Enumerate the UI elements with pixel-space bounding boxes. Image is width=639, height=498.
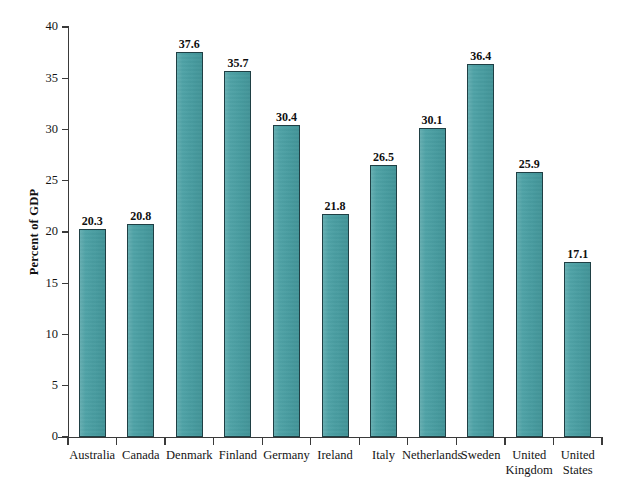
bar: 25.9 bbox=[516, 172, 543, 437]
bar: 21.8 bbox=[322, 214, 349, 437]
bar-value-label: 26.5 bbox=[373, 150, 394, 164]
y-axis-tick: 30 bbox=[62, 129, 69, 130]
y-axis-tick-label: 5 bbox=[52, 377, 58, 393]
bar: 36.4 bbox=[467, 64, 494, 437]
bar-value-label: 17.1 bbox=[567, 247, 588, 261]
bar-value-label: 25.9 bbox=[519, 157, 540, 171]
y-axis-tick-label: 15 bbox=[46, 275, 59, 291]
bar: 26.5 bbox=[370, 165, 397, 437]
y-axis-tick: 25 bbox=[62, 180, 69, 181]
y-axis-tick: 35 bbox=[62, 78, 69, 79]
y-axis-title: Percent of GDP bbox=[24, 27, 44, 437]
x-axis-tick bbox=[456, 437, 457, 445]
bar-value-label: 37.6 bbox=[179, 37, 200, 51]
bar: 17.1 bbox=[564, 262, 591, 437]
x-axis-tick bbox=[67, 437, 68, 445]
bar-chart: Percent of GDP 4035302520151050 20.320.8… bbox=[0, 0, 639, 498]
bar-value-label: 30.4 bbox=[276, 110, 297, 124]
y-axis-tick-label: 10 bbox=[46, 326, 59, 342]
x-axis-tick bbox=[359, 437, 360, 445]
x-axis-category-label: UnitedStates bbox=[547, 448, 608, 478]
x-axis-tick bbox=[164, 437, 165, 445]
x-axis-category-label-line: United bbox=[547, 448, 608, 463]
bar: 20.8 bbox=[127, 224, 154, 437]
x-axis-tick bbox=[116, 437, 117, 445]
y-axis-tick-label: 35 bbox=[46, 70, 59, 86]
x-axis-tick bbox=[262, 437, 263, 445]
x-axis-tick bbox=[553, 437, 554, 445]
bar-value-label: 20.3 bbox=[82, 214, 103, 228]
x-axis-tick bbox=[407, 437, 408, 445]
y-axis-tick: 15 bbox=[62, 283, 69, 284]
y-axis-tick: 5 bbox=[62, 385, 69, 386]
x-axis-line bbox=[58, 437, 603, 438]
bar-value-label: 20.8 bbox=[130, 209, 151, 223]
bar-value-label: 21.8 bbox=[325, 199, 346, 213]
y-axis-tick-label: 20 bbox=[46, 223, 59, 239]
y-axis-tick: 20 bbox=[62, 231, 69, 232]
x-axis-tick bbox=[213, 437, 214, 445]
y-axis-tick-label: 25 bbox=[46, 172, 59, 188]
bar-value-label: 36.4 bbox=[470, 49, 491, 63]
x-axis-tick bbox=[601, 437, 602, 445]
bar: 30.4 bbox=[273, 125, 300, 437]
bar: 37.6 bbox=[176, 52, 203, 437]
x-axis-tick bbox=[504, 437, 505, 445]
x-axis-tick bbox=[310, 437, 311, 445]
bar: 20.3 bbox=[79, 229, 106, 437]
bar: 35.7 bbox=[224, 71, 251, 437]
bar-value-label: 30.1 bbox=[422, 113, 443, 127]
y-axis-tick: 10 bbox=[62, 334, 69, 335]
y-axis-tick-label: 40 bbox=[46, 18, 59, 34]
y-axis-tick-label: 30 bbox=[46, 121, 59, 137]
y-axis-tick: 40 bbox=[62, 26, 69, 27]
bar: 30.1 bbox=[419, 128, 446, 437]
bar-value-label: 35.7 bbox=[227, 56, 248, 70]
y-axis-tick-label: 0 bbox=[52, 428, 58, 444]
x-axis-category-label-line: States bbox=[547, 463, 608, 478]
